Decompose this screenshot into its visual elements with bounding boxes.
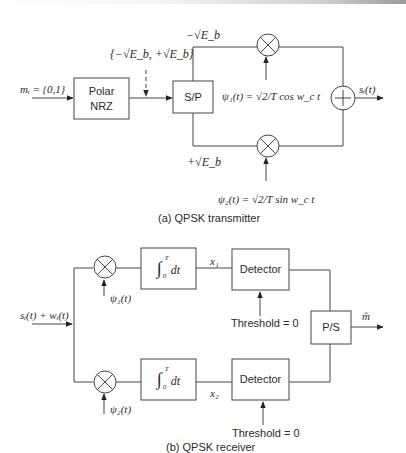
ps-block: P/S xyxy=(311,311,351,344)
sp-block: S/P xyxy=(173,81,213,113)
lower-branch-level: +√E_b xyxy=(187,156,221,168)
levels-label: {−√E_b, +√E_b} xyxy=(110,48,194,60)
polar-nrz-line1: Polar xyxy=(89,84,115,99)
rx-input-label: sᵢ(t) + wᵢ(t) xyxy=(20,310,69,321)
polar-nrz-line2: NRZ xyxy=(89,99,115,114)
psi1-rx-label: ψ₁(t) xyxy=(110,293,131,304)
detector-block-2: Detector xyxy=(232,359,289,400)
integrator-upper-limit: T xyxy=(165,254,169,263)
detector-block-1: Detector xyxy=(232,249,289,290)
threshold-label-1: Threshold = 0 xyxy=(231,318,299,329)
rx-output-label: m̂ xyxy=(362,311,370,322)
integral-sign-icon: ∫ xyxy=(157,258,162,278)
qpsk-diagram-lines xyxy=(0,0,406,453)
integrator-upper-limit: T xyxy=(165,365,169,374)
psi1-tx-label: ψ₁(t) = √2/T cos w_c t xyxy=(222,91,320,102)
integrator-body: dt xyxy=(171,263,180,277)
integrator-block-2: ∫ T 0 dt xyxy=(141,359,196,400)
integrator-body: dt xyxy=(171,374,180,388)
x1-label: x₁ xyxy=(210,256,219,267)
psi2-rx-label: ψ₂(t) xyxy=(110,404,131,415)
upper-branch-level: −√E_b xyxy=(186,29,220,41)
tx-output-label: sᵢ(t) xyxy=(359,84,375,95)
integral-sign-icon: ∫ xyxy=(157,369,162,389)
integrator-lower-limit: 0 xyxy=(163,272,167,281)
tx-caption: (a) QPSK transmitter xyxy=(158,212,260,224)
polar-nrz-block: Polar NRZ xyxy=(74,78,129,119)
x2-label: x₂ xyxy=(210,388,219,399)
rx-caption: (b) QPSK receiver xyxy=(166,441,255,453)
psi2-tx-label: ψ₂(t) = √2/T sin w_c t xyxy=(218,194,314,205)
tx-input-label: mᵢ = {0,1} xyxy=(20,84,65,95)
integrator-block-1: ∫ T 0 dt xyxy=(141,248,196,289)
threshold-label-2: Threshold = 0 xyxy=(232,428,300,439)
integrator-lower-limit: 0 xyxy=(163,383,167,392)
